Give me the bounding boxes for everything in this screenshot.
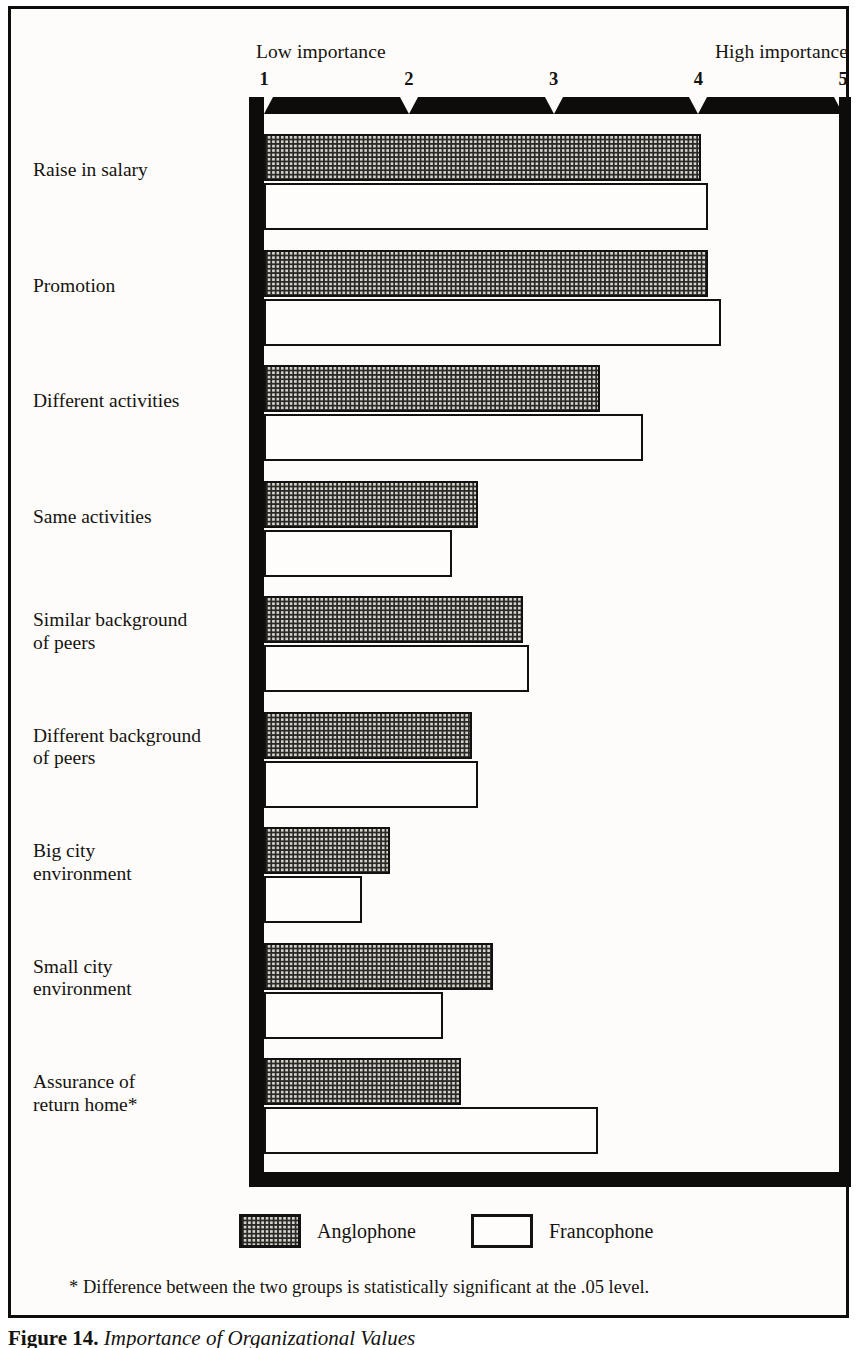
bars-layer bbox=[264, 114, 851, 1172]
bar-francophone-group-4 bbox=[264, 645, 529, 692]
bar-anglophone-group-8 bbox=[264, 1058, 461, 1105]
bar-francophone-group-6 bbox=[264, 876, 362, 923]
figure-caption-label: Figure 14. bbox=[8, 1326, 99, 1348]
category-label-0: Raise in salary bbox=[33, 159, 247, 182]
x-tick-label-2: 2 bbox=[404, 69, 413, 90]
category-labels: Raise in salaryPromotionDifferent activi… bbox=[11, 97, 247, 1187]
x-axis-rail bbox=[249, 97, 851, 114]
category-label-7: Small city environment bbox=[33, 956, 247, 1001]
bar-anglophone-group-0 bbox=[264, 134, 701, 181]
axis-low-importance-label: Low importance bbox=[256, 41, 386, 63]
legend-label-francophone: Francophone bbox=[549, 1220, 653, 1243]
legend-item-francophone: Francophone bbox=[471, 1214, 653, 1248]
bar-francophone-group-2 bbox=[264, 414, 643, 461]
white-swatch-icon bbox=[471, 1214, 533, 1248]
legend-item-anglophone: Anglophone bbox=[239, 1214, 416, 1248]
bar-francophone-group-7 bbox=[264, 992, 443, 1039]
x-tick-label-5: 5 bbox=[838, 69, 847, 90]
bar-francophone-group-5 bbox=[264, 761, 478, 808]
bar-francophone-group-8 bbox=[264, 1107, 598, 1154]
axis-caption-row: Low importance High importance bbox=[256, 41, 856, 67]
axis-notch-2 bbox=[400, 97, 418, 114]
x-tick-label-1: 1 bbox=[259, 69, 268, 90]
category-label-5: Different background of peers bbox=[33, 725, 247, 770]
x-axis-tick-labels: 12345 bbox=[11, 69, 857, 93]
bar-francophone-group-0 bbox=[264, 183, 708, 230]
bar-anglophone-group-3 bbox=[264, 481, 478, 528]
legend-label-anglophone: Anglophone bbox=[317, 1220, 416, 1243]
bar-anglophone-group-5 bbox=[264, 712, 472, 759]
figure-frame: Low importance High importance 12345 Rai… bbox=[8, 6, 849, 1318]
category-label-2: Different activities bbox=[33, 390, 247, 413]
bar-anglophone-group-4 bbox=[264, 596, 523, 643]
figure-caption-text: Importance of Organizational Values bbox=[104, 1326, 415, 1348]
bar-anglophone-group-6 bbox=[264, 827, 390, 874]
figure-caption: Figure 14. Importance of Organizational … bbox=[8, 1326, 848, 1348]
bar-anglophone-group-1 bbox=[264, 250, 708, 297]
bar-anglophone-group-7 bbox=[264, 943, 493, 990]
category-label-1: Promotion bbox=[33, 274, 247, 297]
category-label-3: Same activities bbox=[33, 505, 247, 528]
chart-footnote: * Difference between the two groups is s… bbox=[69, 1277, 829, 1298]
plot-area bbox=[249, 97, 851, 1187]
bar-anglophone-group-2 bbox=[264, 365, 600, 412]
bar-francophone-group-3 bbox=[264, 530, 452, 577]
category-label-8: Assurance of return home* bbox=[33, 1071, 247, 1116]
bar-francophone-group-1 bbox=[264, 299, 721, 346]
x-tick-label-3: 3 bbox=[549, 69, 558, 90]
axis-left-wall bbox=[249, 97, 264, 1187]
axis-notch-4 bbox=[689, 97, 707, 114]
axis-high-importance-label: High importance bbox=[715, 41, 848, 63]
patterned-gray-swatch-icon bbox=[239, 1214, 301, 1248]
axis-notch-3 bbox=[545, 97, 563, 114]
chart-legend: Anglophone Francophone bbox=[11, 1214, 857, 1260]
category-label-4: Similar background of peers bbox=[33, 609, 247, 654]
axis-bottom-rail bbox=[249, 1172, 851, 1187]
x-tick-label-4: 4 bbox=[694, 69, 703, 90]
category-label-6: Big city environment bbox=[33, 840, 247, 885]
